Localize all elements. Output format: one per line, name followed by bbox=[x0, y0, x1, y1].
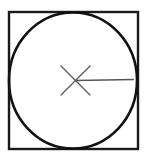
geometry-diagram bbox=[0, 0, 147, 160]
figure-canvas bbox=[0, 0, 147, 160]
radius-line bbox=[76, 80, 135, 81]
